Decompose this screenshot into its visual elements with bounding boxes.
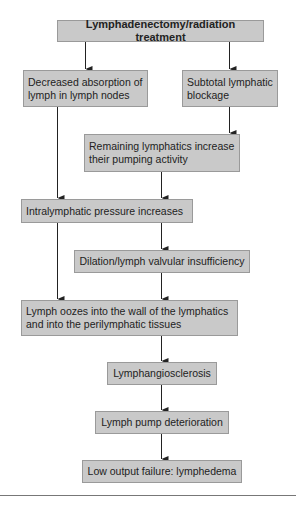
node-subtotal-blockage: Subtotal lymphatic blockage [182, 70, 278, 107]
node-label: Subtotal lymphatic blockage [187, 76, 273, 102]
node-lymphangiosclerosis: Lymphangiosclerosis [107, 362, 217, 385]
node-label: Low output failure: lymphedema [88, 465, 237, 478]
node-intralymphatic-pressure: Intralymphatic pressure increases [21, 199, 193, 223]
node-label: Intralymphatic pressure increases [26, 205, 183, 218]
node-decreased-absorption: Decreased absorption of lymph in lymph n… [23, 70, 148, 107]
node-label: Remaining lymphatics increase their pump… [89, 140, 235, 166]
caption-divider [0, 495, 296, 496]
node-label: Decreased absorption of lymph in lymph n… [28, 76, 143, 102]
node-label: Lymph pump deterioration [101, 416, 223, 429]
node-dilation-valvular-insufficiency: Dilation/lymph valvular insufficiency [74, 250, 250, 273]
node-label: Lymphadenectomy/radiation treatment [62, 18, 259, 44]
node-label: Lymphangiosclerosis [113, 367, 211, 380]
node-lymph-pump-deterioration: Lymph pump deterioration [95, 411, 229, 434]
node-lymph-oozes: Lymph oozes into the wall of the lymphat… [21, 300, 238, 336]
node-remaining-lymphatics: Remaining lymphatics increase their pump… [84, 134, 240, 172]
node-low-output-failure: Low output failure: lymphedema [82, 460, 242, 483]
node-label: Dilation/lymph valvular insufficiency [80, 255, 245, 268]
node-lymphadenectomy-radiation: Lymphadenectomy/radiation treatment [57, 20, 264, 42]
node-label: Lymph oozes into the wall of the lymphat… [26, 305, 233, 331]
